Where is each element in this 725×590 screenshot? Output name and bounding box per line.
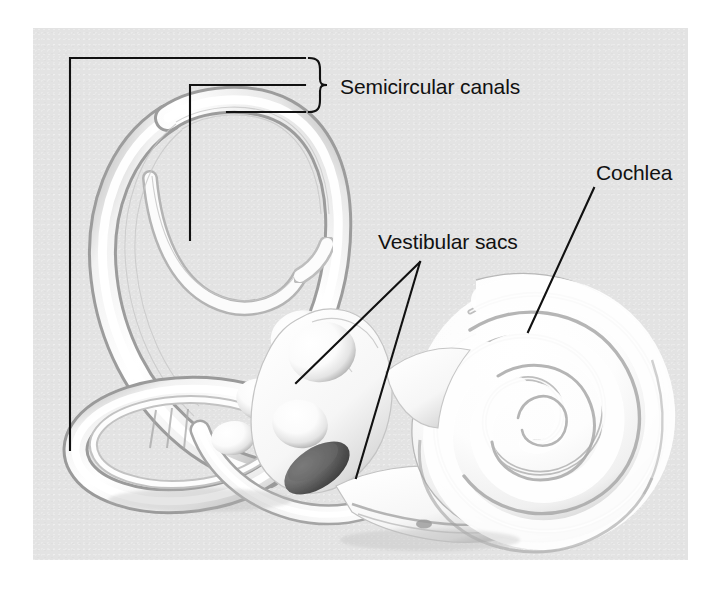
figure-page: Semicircular canals Cochlea Vestibular s… (0, 0, 725, 590)
leader-semicircular-1 (70, 58, 305, 450)
leader-cochlea (528, 188, 594, 332)
label-vestibular-sacs: Vestibular sacs (378, 231, 518, 252)
label-semicircular-canals: Semicircular canals (340, 76, 520, 97)
label-cochlea: Cochlea (596, 162, 672, 183)
leader-semicircular-2 (190, 85, 305, 240)
curly-brace-icon (309, 58, 327, 112)
